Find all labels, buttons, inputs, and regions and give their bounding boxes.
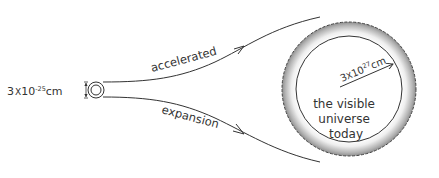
inflation-diagram: 3X10-25cm accelerated expansion 3X1027cm…: [0, 0, 439, 178]
lower-arrow-icon: [233, 124, 244, 134]
initial-universe-inner: [91, 85, 101, 95]
upper-arrow-label: accelerated: [149, 44, 218, 75]
initial-universe: [88, 82, 104, 98]
initial-size-dimension: [84, 82, 88, 98]
initial-size-label: 3X10-25cm: [7, 85, 63, 98]
lower-arrow-label: expansion: [160, 102, 220, 131]
